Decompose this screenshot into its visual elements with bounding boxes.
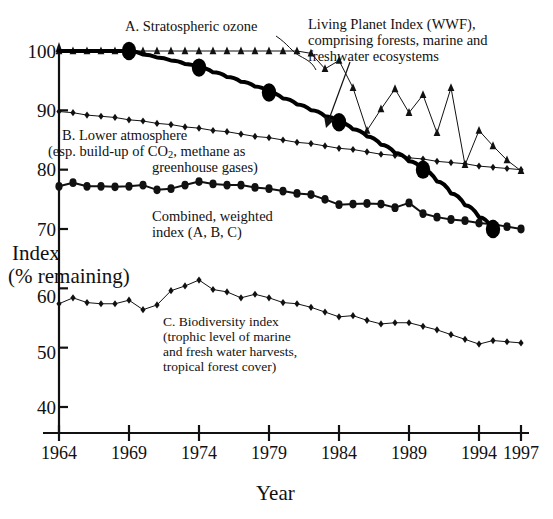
annotation-c-line3: and fresh water harvests, <box>163 344 297 359</box>
annotation-c-line4: tropical forest cover) <box>163 359 276 374</box>
annotation-b-line2-a: (esp. build-up of CO <box>48 143 168 159</box>
x-tick-label-1997: 1997 <box>491 443 551 463</box>
y-tick-label-100: 100 <box>16 41 56 62</box>
x-tick-label-1974: 1974 <box>169 443 229 463</box>
annotation-lpi-line3: freshwater ecosystems <box>308 48 439 64</box>
y-axis-title-line2: (% remaining) <box>8 264 130 289</box>
x-tick-label-1984: 1984 <box>309 443 369 463</box>
annotation-c-line1: C. Biodiversity index <box>163 314 279 329</box>
x-tick-label-1979: 1979 <box>239 443 299 463</box>
x-tick-label-1969: 1969 <box>99 443 159 463</box>
annotation-b-line3: greenhouse gases) <box>152 159 258 175</box>
annotation-ozone: A. Stratospheric ozone <box>125 18 257 34</box>
annotation-b-line1: B. Lower atmosphere <box>62 127 187 143</box>
y-tick-label-50: 50 <box>16 342 56 363</box>
annotation-lpi-line1: Living Planet Index (WWF), <box>308 16 476 32</box>
chart-container: 100 90 80 70 60 50 40 1964 1969 1974 197… <box>0 0 553 519</box>
y-tick-label-70: 70 <box>16 219 56 240</box>
chart-plot-area <box>0 0 553 519</box>
y-tick-label-80: 80 <box>16 159 56 180</box>
x-tick-label-1964: 1964 <box>29 443 89 463</box>
x-tick-label-1989: 1989 <box>379 443 439 463</box>
annotation-b-line2-b: , methane as <box>173 143 245 159</box>
annotation-combined-line2: index (A, B, C) <box>152 224 242 240</box>
y-tick-label-40: 40 <box>16 397 56 418</box>
annotation-lpi-line2: comprising forests, marine and <box>308 32 488 48</box>
annotation-combined-line1: Combined, weighted <box>152 208 273 224</box>
y-tick-label-60: 60 <box>16 286 56 307</box>
annotation-c-line2: (trophic level of marine <box>163 329 291 344</box>
axis-group <box>43 42 529 441</box>
x-axis-title: Year <box>256 482 295 506</box>
series-2 <box>55 177 524 233</box>
y-tick-label-90: 90 <box>16 100 56 121</box>
y-axis-title-line1: Index <box>12 241 60 266</box>
